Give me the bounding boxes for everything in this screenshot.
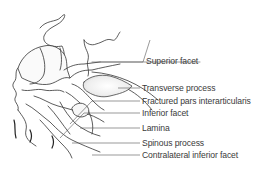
label-transverse-process: Transverse process xyxy=(142,83,215,93)
label-contralateral-inferior-facet: Contralateral inferior facet xyxy=(142,150,238,160)
label-lamina: Lamina xyxy=(142,123,170,133)
label-spinous-process: Spinous process xyxy=(142,138,204,148)
label-superior-facet: Superior facet xyxy=(146,56,198,66)
label-fractured-pars-interarticularis: Fractured pars interarticularis xyxy=(142,96,251,106)
label-inferior-facet: Inferior facet xyxy=(142,108,188,118)
